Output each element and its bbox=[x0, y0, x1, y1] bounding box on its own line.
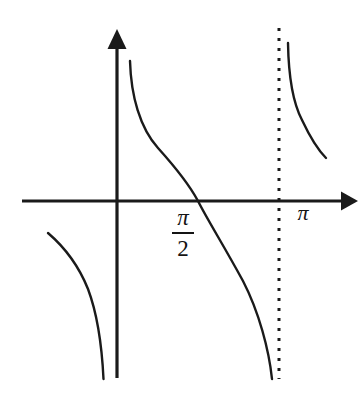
curve-branch-center bbox=[130, 61, 272, 379]
pi-over-two-numerator: π bbox=[166, 206, 200, 231]
pi-over-two-denominator: 2 bbox=[166, 236, 200, 260]
y-axis-arrow-icon bbox=[108, 29, 127, 49]
cotangent-graph-figure: π 2 π bbox=[0, 0, 363, 397]
curve-branch-right bbox=[288, 43, 326, 158]
x-axis-arrow-icon bbox=[341, 192, 358, 211]
pi-over-two-tick-label: π 2 bbox=[166, 206, 200, 260]
pi-tick-label: π bbox=[291, 202, 315, 224]
plot-canvas bbox=[0, 0, 363, 397]
curve-branch-left bbox=[48, 233, 104, 379]
fraction-bar bbox=[172, 232, 194, 234]
